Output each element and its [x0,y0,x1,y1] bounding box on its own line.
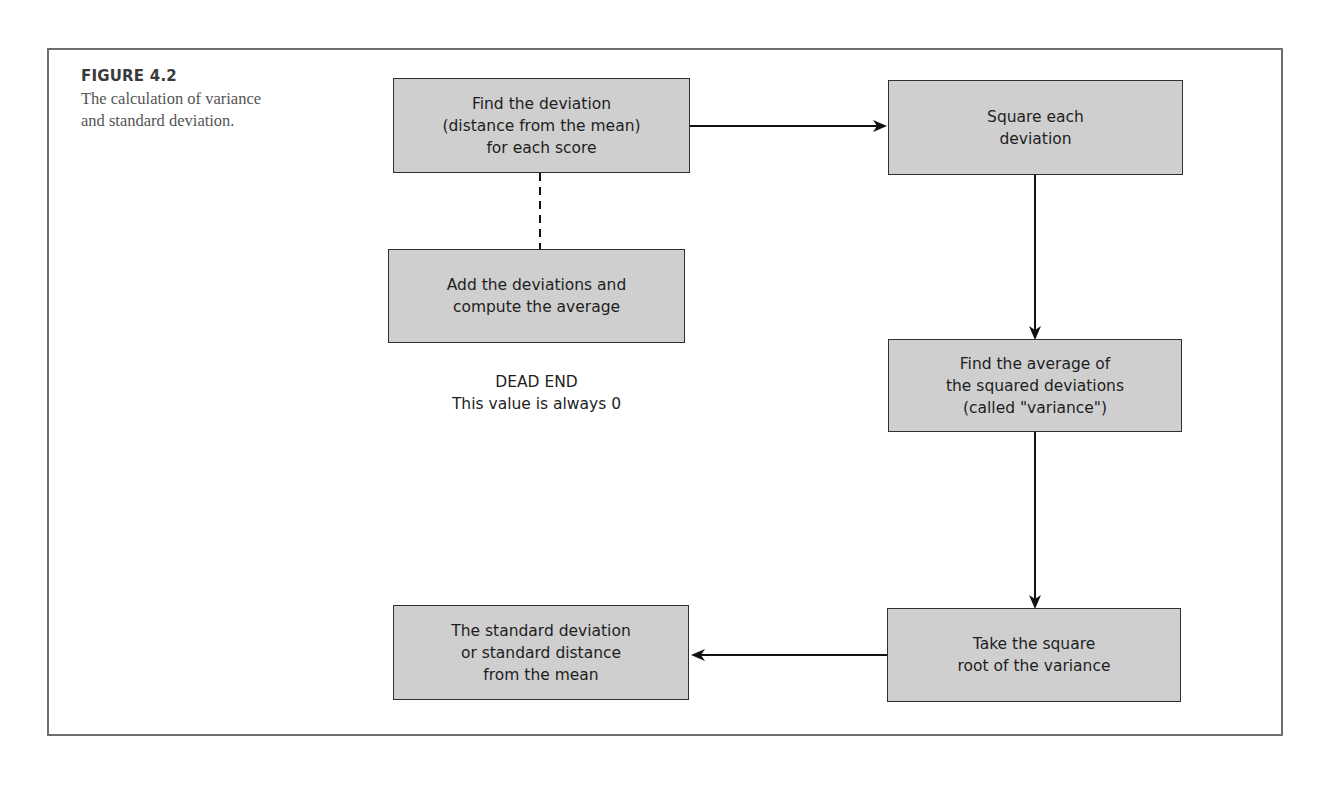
node-find-deviation: Find the deviation (distance from the me… [393,78,690,173]
node-square-deviation: Square each deviation [888,80,1183,175]
node-average-squared: Find the average of the squared deviatio… [888,339,1182,432]
figure-label: FIGURE 4.2 [81,67,177,85]
figure-caption: The calculation of variance and standard… [81,88,281,132]
node-add-deviations: Add the deviations and compute the avera… [388,249,685,343]
node-square-root: Take the square root of the variance [887,608,1181,702]
node-standard-deviation: The standard deviation or standard dista… [393,605,689,700]
dead-end-note: DEAD END This value is always 0 [388,371,685,415]
